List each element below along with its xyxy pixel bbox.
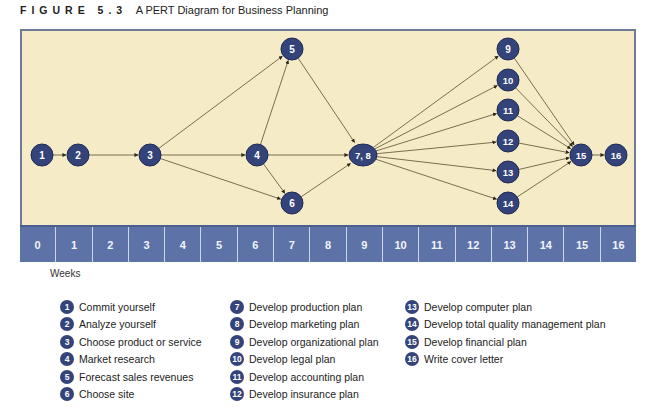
node-12: 12 [497, 130, 519, 152]
node-78: 7, 8 [349, 144, 377, 166]
node-label: 10 [503, 75, 514, 86]
node-13: 13 [497, 161, 519, 183]
legend-text: Write cover letter [424, 353, 503, 365]
node-6: 6 [281, 192, 303, 214]
node-11: 11 [497, 99, 519, 121]
legend-text: Choose site [79, 388, 134, 400]
edge-4-6 [263, 164, 284, 193]
legend-badge: 3 [60, 335, 74, 349]
edge-5-78 [298, 58, 355, 142]
legend-badge: 6 [60, 387, 74, 401]
edge-78-10 [375, 86, 498, 150]
legend-badge: 14 [405, 317, 419, 331]
node-3: 3 [139, 144, 161, 166]
edge-10-15 [516, 88, 573, 147]
legend-text: Choose product or service [79, 336, 202, 348]
node-label: 9 [505, 44, 511, 55]
legend-badge: 16 [405, 352, 419, 366]
legend-item: 12Develop insurance plan [230, 386, 379, 404]
weeks-axis-label: Weeks [50, 268, 80, 279]
legend-item: 15Develop financial plan [405, 333, 606, 351]
node-label: 14 [503, 198, 514, 209]
node-label: 4 [254, 150, 260, 161]
legend-text: Develop accounting plan [249, 371, 364, 383]
legend-item: 10Develop legal plan [230, 351, 379, 369]
node-label: 12 [503, 136, 514, 147]
edge-4-5 [260, 60, 288, 144]
legend-item: 9Develop organizational plan [230, 333, 379, 351]
legend-badge: 1 [60, 300, 74, 314]
legend-item: 3Choose product or service [60, 333, 202, 351]
legend-badge: 13 [405, 300, 419, 314]
node-4: 4 [246, 144, 268, 166]
legend-badge: 10 [230, 352, 244, 366]
edge-11-15 [517, 116, 570, 149]
legend-text: Develop computer plan [424, 301, 532, 313]
legend-badge: 15 [405, 335, 419, 349]
edge-78-12 [376, 142, 496, 154]
node-label: 5 [289, 44, 295, 55]
legend-item: 6Choose site [60, 386, 202, 404]
legend-text: Develop financial plan [424, 336, 527, 348]
node-15: 15 [570, 144, 592, 166]
edge-6-78 [301, 163, 350, 196]
edges-layer [53, 56, 604, 199]
edge-78-13 [376, 157, 496, 171]
legend-badge: 11 [230, 370, 244, 384]
legend-item: 16Write cover letter [405, 351, 606, 369]
legend-badge: 4 [60, 352, 74, 366]
legend-text: Develop organizational plan [249, 336, 379, 348]
node-1: 1 [31, 144, 53, 166]
node-5: 5 [281, 38, 303, 60]
node-2: 2 [67, 144, 89, 166]
legend-badge: 2 [60, 317, 74, 331]
legend-item: 7Develop production plan [230, 298, 379, 316]
legend-item: 5Forecast sales revenues [60, 368, 202, 386]
node-label: 7, 8 [355, 150, 371, 161]
legend-item: 4Market research [60, 351, 202, 369]
legend-item: 11Develop accounting plan [230, 368, 379, 386]
node-9: 9 [497, 38, 519, 60]
legend-text: Analyze yourself [79, 318, 156, 330]
legend-item: 13Develop computer plan [405, 298, 606, 316]
legend-text: Forecast sales revenues [79, 371, 193, 383]
node-10: 10 [497, 69, 519, 91]
legend-text: Develop legal plan [249, 353, 335, 365]
node-label: 16 [611, 150, 622, 161]
node-label: 13 [503, 167, 514, 178]
legend-item: 1Commit yourself [60, 298, 202, 316]
legend-text: Market research [79, 353, 155, 365]
node-label: 1 [39, 150, 45, 161]
edge-12-15 [519, 143, 569, 153]
legend-text: Develop marketing plan [249, 318, 359, 330]
legend-text: Develop insurance plan [249, 388, 359, 400]
legend-column-1: 1Commit yourself2Analyze yourself3Choose… [60, 298, 202, 403]
legend-badge: 7 [230, 300, 244, 314]
legend-badge: 9 [230, 335, 244, 349]
legend-badge: 12 [230, 387, 244, 401]
legend-badge: 5 [60, 370, 74, 384]
legend-column-3: 13Develop computer plan14Develop total q… [405, 298, 606, 368]
node-label: 15 [576, 150, 587, 161]
node-label: 2 [75, 150, 81, 161]
edge-78-9 [373, 56, 498, 147]
legend-item: 2Analyze yourself [60, 316, 202, 334]
legend-text: Develop production plan [249, 301, 362, 313]
legend-text: Commit yourself [79, 301, 155, 313]
legend-column-2: 7Develop production plan8Develop marketi… [230, 298, 379, 403]
legend-badge: 8 [230, 317, 244, 331]
legend-item: 14Develop total quality management plan [405, 316, 606, 334]
edge-14-15 [517, 162, 571, 197]
node-label: 6 [289, 198, 295, 209]
node-label: 3 [147, 150, 153, 161]
legend-text: Develop total quality management plan [424, 318, 606, 330]
nodes-layer: 1234567, 8910111213141516 [31, 38, 627, 214]
node-label: 11 [503, 105, 514, 116]
legend-item: 8Develop marketing plan [230, 316, 379, 334]
pert-network: 1234567, 8910111213141516 [0, 0, 655, 262]
node-14: 14 [497, 192, 519, 214]
node-16: 16 [605, 144, 627, 166]
edge-78-14 [375, 159, 496, 199]
